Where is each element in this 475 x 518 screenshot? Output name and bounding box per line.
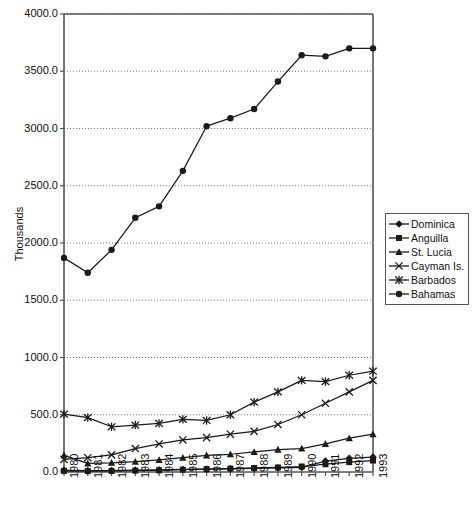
data-point-circle — [132, 215, 138, 221]
data-point-square — [85, 468, 91, 474]
y-axis-tick-label: 1500.0 — [2, 293, 58, 305]
marker-square — [85, 468, 91, 474]
x-axis-tick-label: 1982 — [116, 454, 128, 478]
data-point-square — [299, 464, 305, 470]
marker-diamond — [395, 220, 403, 228]
data-point-square — [61, 468, 67, 474]
x-axis-tick-label: 1986 — [211, 454, 223, 478]
marker-circle — [85, 270, 91, 276]
marker-circle — [251, 106, 257, 112]
marker-square — [299, 464, 305, 470]
marker-circle — [346, 45, 352, 51]
data-point-circle — [346, 45, 352, 51]
data-point-circle — [370, 45, 376, 51]
x-axis-tick-label: 1980 — [68, 454, 80, 478]
legend-item-cayman-is[interactable]: Cayman Is. — [388, 259, 466, 273]
y-axis-title: Thousands — [13, 184, 25, 284]
marker-square — [109, 468, 115, 474]
y-axis-tick-label: 500.0 — [2, 408, 58, 420]
legend-item-label: Barbados — [410, 273, 456, 287]
marker-square — [251, 465, 257, 471]
marker-square — [346, 459, 352, 465]
series-line — [64, 48, 373, 272]
data-point-square — [204, 466, 210, 472]
marker-square — [227, 466, 233, 472]
series-line — [64, 380, 373, 459]
data-point-circle — [298, 52, 304, 58]
chart-plot-area: Thousands 4000.03500.03000.02500.02000.0… — [0, 0, 475, 518]
marker-circle — [396, 291, 402, 297]
data-point-circle — [396, 291, 402, 297]
marker-circle — [227, 115, 233, 121]
x-axis-tick-label: 1983 — [139, 454, 151, 478]
legend-item-label: Bahamas — [410, 287, 455, 301]
legend-item-dominica[interactable]: Dominica — [388, 217, 466, 231]
series-barbados — [60, 367, 377, 431]
legend-marker-star-icon — [388, 273, 410, 287]
marker-square — [156, 467, 162, 473]
y-axis-tick-label: 0.0 — [2, 465, 58, 477]
y-axis-tick-label: 3000.0 — [2, 122, 58, 134]
data-point-square — [370, 458, 376, 464]
y-axis-tick-label: 2500.0 — [2, 179, 58, 191]
legend-marker-square-icon — [388, 231, 410, 245]
data-point-circle — [275, 78, 281, 84]
legend-marker-triangle-icon — [388, 245, 410, 259]
legend-item-label: Anguilla — [410, 231, 448, 245]
marker-circle — [203, 123, 209, 129]
y-axis-tick-label: 1000.0 — [2, 351, 58, 363]
legend-item-barbados[interactable]: Barbados — [388, 273, 466, 287]
marker-circle — [322, 53, 328, 59]
data-point-square — [251, 465, 257, 471]
marker-triangle — [369, 430, 376, 437]
marker-square — [322, 461, 328, 467]
data-point-square — [346, 459, 352, 465]
x-axis-tick-label: 1985 — [187, 454, 199, 478]
data-point-cross — [322, 400, 329, 407]
x-axis-tick-label: 1984 — [163, 454, 175, 478]
legend-marker-circle-icon — [388, 287, 410, 301]
data-point-circle — [227, 115, 233, 121]
data-point-square — [396, 235, 402, 241]
legend-item-anguilla[interactable]: Anguilla — [388, 231, 466, 245]
series-line — [64, 371, 373, 427]
data-point-circle — [156, 203, 162, 209]
marker-square — [370, 458, 376, 464]
marker-square — [132, 468, 138, 474]
data-point-square — [180, 467, 186, 473]
series-cayman-is — [60, 377, 376, 463]
data-point-square — [109, 468, 115, 474]
x-axis-tick-label: 1981 — [92, 454, 104, 478]
data-point-square — [322, 461, 328, 467]
legend-item-st-lucia[interactable]: St. Lucia — [388, 245, 466, 259]
marker-square — [275, 464, 281, 470]
chart-legend: DominicaAnguillaSt. LuciaCayman Is.Barba… — [385, 213, 469, 305]
legend-item-bahamas[interactable]: Bahamas — [388, 287, 466, 301]
marker-circle — [108, 247, 114, 253]
series-bahamas — [61, 45, 376, 276]
marker-square — [396, 235, 402, 241]
data-point-circle — [203, 123, 209, 129]
marker-circle — [298, 52, 304, 58]
data-point-star — [274, 388, 282, 396]
legend-item-label: Dominica — [410, 217, 455, 231]
x-axis-tick-label: 1989 — [282, 454, 294, 478]
y-axis-tick-label: 4000.0 — [2, 7, 58, 19]
x-axis-tick-label: 1988 — [258, 454, 270, 478]
data-point-square — [156, 467, 162, 473]
x-axis-tick-label: 1990 — [306, 454, 318, 478]
legend-item-label: Cayman Is. — [410, 259, 464, 273]
data-point-circle — [180, 168, 186, 174]
data-point-circle — [251, 106, 257, 112]
marker-circle — [180, 168, 186, 174]
legend-marker-diamond-icon — [388, 217, 410, 231]
data-point-diamond — [395, 220, 403, 228]
marker-square — [180, 467, 186, 473]
data-point-circle — [322, 53, 328, 59]
y-axis-tick-label: 2000.0 — [2, 236, 58, 248]
marker-circle — [370, 45, 376, 51]
data-point-square — [132, 468, 138, 474]
marker-square — [204, 466, 210, 472]
marker-circle — [61, 255, 67, 261]
marker-circle — [132, 215, 138, 221]
